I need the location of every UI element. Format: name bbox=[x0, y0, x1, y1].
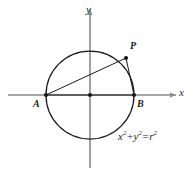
point-label-B: B bbox=[137, 99, 144, 109]
figure-canvas bbox=[0, 0, 195, 173]
point-B-dot bbox=[132, 93, 136, 97]
point-A-dot bbox=[44, 93, 48, 97]
segment-AP bbox=[46, 58, 126, 95]
x-axis-label: x bbox=[179, 87, 184, 98]
point-origin-dot bbox=[88, 93, 92, 97]
equation-r-exponent: 2 bbox=[154, 129, 158, 137]
y-axis-label: y bbox=[86, 4, 91, 15]
segment-PB bbox=[126, 58, 134, 95]
equation-plus-operator: + bbox=[126, 130, 133, 142]
x-axis-arrow-icon bbox=[170, 92, 176, 97]
circle-equation-label: x2+y2=r2 bbox=[118, 131, 157, 142]
point-P-dot bbox=[124, 56, 128, 60]
geometry-figure: y x A B P x2+y2=r2 bbox=[0, 0, 195, 173]
point-label-A: A bbox=[33, 99, 40, 109]
point-label-P: P bbox=[130, 41, 136, 51]
